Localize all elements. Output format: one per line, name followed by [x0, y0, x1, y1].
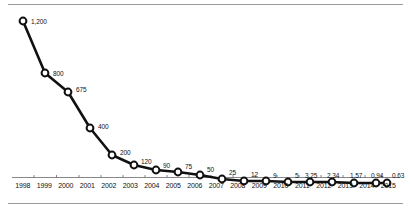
x-axis-tick-label: 2013 [338, 182, 353, 190]
data-point-value-label: 5 [295, 172, 299, 179]
data-series-line [23, 21, 387, 183]
data-point-value-label: 0.94 [371, 172, 383, 179]
x-axis-tick-label: 2008 [230, 182, 245, 190]
data-point-marker [87, 125, 94, 132]
data-point-value-label: 800 [53, 70, 64, 77]
x-axis-tick-label: 2012 [316, 182, 331, 190]
x-axis-tick-label: 1998 [15, 182, 30, 190]
data-point-value-label: 1.57 [350, 172, 362, 179]
data-point-marker [197, 172, 204, 179]
x-axis-tick-label: 2002 [101, 182, 116, 190]
data-point-value-label: 75 [185, 163, 192, 170]
x-axis-tick-label: 2007 [209, 182, 224, 190]
x-axis-tick-label: 2006 [187, 182, 202, 190]
x-axis-tick-label: 2004 [144, 182, 159, 190]
data-point-marker [42, 70, 49, 77]
x-axis-tick-label: 2010 [273, 182, 288, 190]
data-point-value-label: 0.63 [392, 172, 404, 179]
data-point-value-label: 9 [273, 172, 277, 179]
data-point-value-label: 3.25 [305, 172, 317, 179]
data-point-value-label: 12 [251, 171, 258, 178]
x-axis-tick-label: 1999 [37, 182, 52, 190]
data-point-marker [131, 162, 138, 169]
data-point-value-label: 120 [141, 158, 152, 165]
data-point-value-label: 675 [76, 86, 87, 93]
x-axis-tick-label: 2014 [359, 182, 374, 190]
x-axis-tick-label: 2001 [80, 182, 95, 190]
data-point-marker [153, 167, 160, 174]
x-axis-tick-label: 2009 [252, 182, 267, 190]
data-point-value-label: 90 [163, 162, 170, 169]
x-axis-tick-label: 2011 [295, 182, 309, 190]
data-point-marker [65, 89, 72, 96]
line-chart-figure: 1,2008006754002001209075502512953.252.34… [0, 0, 411, 213]
data-point-value-label: 400 [98, 123, 109, 130]
x-axis-tick-label: 2000 [58, 182, 73, 190]
data-point-value-label: 2.34 [327, 172, 339, 179]
x-axis-tick-label: 2015 [381, 182, 396, 190]
data-point-value-label: 50 [207, 166, 214, 173]
x-axis-tick-label: 2005 [166, 182, 181, 190]
x-axis-tick-label: 2003 [123, 182, 138, 190]
data-point-value-label: 25 [229, 169, 236, 176]
data-point-marker [109, 152, 116, 159]
data-point-value-label: 200 [120, 149, 131, 156]
data-point-value-label: 1,200 [31, 18, 47, 25]
data-point-marker [20, 18, 27, 25]
data-point-marker [175, 169, 182, 176]
